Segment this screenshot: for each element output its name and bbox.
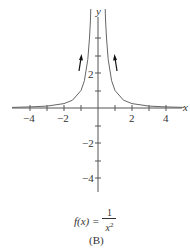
- x-tick-label-2: 2: [129, 113, 135, 124]
- curve-left-branch: [12, 9, 91, 107]
- function-formula: f(x) = 1 x2: [74, 207, 116, 234]
- x-tick-label-neg2: −2: [57, 113, 69, 124]
- formula-fraction: 1 x2: [102, 207, 116, 234]
- curve-right-branch: [105, 9, 184, 107]
- x-axis-label: x: [183, 102, 188, 113]
- formula-numerator: 1: [107, 207, 112, 218]
- x-tick-label-neg4: −4: [23, 113, 35, 124]
- arrow-up-icon-left: [79, 54, 83, 71]
- formula-denominator: x2: [105, 219, 113, 234]
- y-tick-label-neg4: −4: [82, 173, 94, 184]
- x-tick-label-4: 4: [163, 113, 169, 124]
- formula-lhs: f(x) =: [74, 215, 99, 227]
- y-tick-label-neg2: −2: [82, 138, 94, 149]
- figure-caption: (B): [89, 234, 104, 246]
- y-tick-label-2: 2: [88, 69, 94, 80]
- formula-exponent: 2: [110, 221, 114, 229]
- arrow-up-icon-right: [113, 54, 117, 71]
- y-axis-label: y: [96, 6, 101, 17]
